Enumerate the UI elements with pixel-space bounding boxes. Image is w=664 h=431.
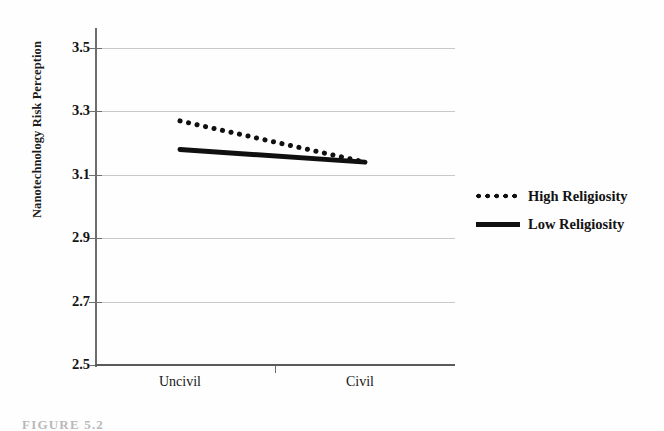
legend-label-high-religiosity: High Religiosity (528, 188, 628, 205)
figure-caption: FIGURE 5.2 (22, 417, 104, 431)
gridline-2-7 (97, 302, 455, 303)
y-axis-tick-labels: 3.5 3.3 3.1 2.9 2.7 2.5 (44, 0, 90, 431)
figure-root: Nanotechnology Risk Perception 3.5 3.3 3… (0, 0, 664, 431)
legend: High Religiosity Low Religiosity (476, 182, 661, 238)
solid-line-icon (476, 218, 520, 230)
series-line-low-religiosity (180, 149, 365, 162)
gridline-3-3 (97, 111, 455, 112)
y-tick-label-2-5: 2.5 (52, 357, 90, 372)
series-line-high-religiosity (180, 121, 365, 162)
legend-item-high-religiosity: High Religiosity (476, 182, 661, 210)
legend-label-low-religiosity: Low Religiosity (528, 216, 624, 233)
gridline-3-5 (97, 48, 455, 49)
x-tick-label-uncivil: Uncivil (120, 374, 240, 390)
y-tick-label-2-7: 2.7 (52, 294, 90, 309)
dotted-line-icon (476, 190, 520, 202)
gridline-3-1 (97, 175, 455, 176)
y-axis-title: Nanotechnology Risk Perception (30, 15, 45, 245)
y-axis-line (95, 28, 97, 367)
x-tick-label-civil: Civil (300, 374, 420, 390)
y-tick-label-3-5: 3.5 (52, 40, 90, 55)
x-tick-mark-middle (275, 366, 276, 373)
legend-item-low-religiosity: Low Religiosity (476, 210, 661, 238)
y-tick-label-3-3: 3.3 (52, 103, 90, 118)
gridline-2-9 (97, 238, 455, 239)
y-tick-label-2-9: 2.9 (52, 230, 90, 245)
y-tick-label-3-1: 3.1 (52, 167, 90, 182)
